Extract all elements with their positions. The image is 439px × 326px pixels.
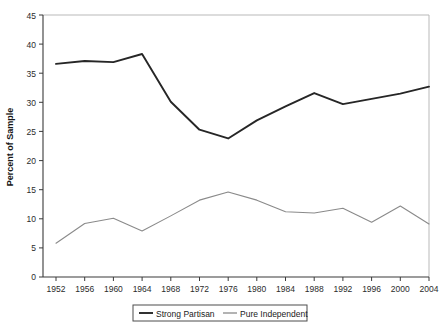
y-tick-label: 20 — [27, 156, 37, 166]
legend-label-pure-independent: Pure Independent — [240, 309, 308, 319]
x-tick-label: 1956 — [75, 284, 94, 294]
legend-label-strong-partisan: Strong Partisan — [156, 309, 215, 319]
y-tick-label: 0 — [31, 272, 36, 282]
line-chart: Percent of Sample 45 40 35 30 25 20 15 1… — [0, 0, 439, 326]
x-tick-label: 1964 — [133, 284, 152, 294]
y-axis-title: Percent of Sample — [5, 108, 15, 187]
y-tick-label: 25 — [27, 127, 37, 137]
y-tick-label: 45 — [27, 11, 37, 21]
chart-figure: Percent of Sample 45 40 35 30 25 20 15 1… — [0, 0, 439, 326]
x-tick-label: 1996 — [362, 284, 381, 294]
x-tick-label: 1976 — [219, 284, 238, 294]
x-tick-label: 1952 — [47, 284, 66, 294]
x-tick-label: 1980 — [247, 284, 266, 294]
x-tick-label: 1960 — [104, 284, 123, 294]
y-tick-label: 35 — [27, 69, 37, 79]
y-tick-label: 30 — [27, 98, 37, 108]
x-tick-label: 1992 — [333, 284, 352, 294]
chart-legend: Strong Partisan Pure Independent — [133, 305, 308, 321]
x-tick-label: 2004 — [420, 284, 439, 294]
x-tick-label: 1968 — [161, 284, 180, 294]
x-tick-label: 1984 — [276, 284, 295, 294]
x-tick-label: 1988 — [305, 284, 324, 294]
x-tick-label: 2000 — [391, 284, 410, 294]
y-tick-label: 5 — [31, 243, 36, 253]
y-tick-label: 40 — [27, 40, 37, 50]
y-tick-label: 15 — [27, 185, 37, 195]
x-tick-label: 1972 — [190, 284, 209, 294]
y-tick-label: 10 — [27, 214, 37, 224]
